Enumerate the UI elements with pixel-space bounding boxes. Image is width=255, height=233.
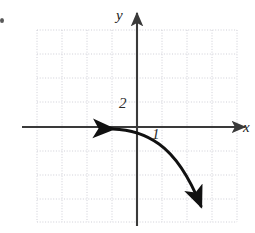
x-axis-tick-label-1: 1 bbox=[152, 127, 160, 142]
y-axis-label: y bbox=[116, 8, 123, 23]
graph-figure: y x 2 1 bbox=[0, 0, 255, 233]
coordinate-plane bbox=[0, 0, 255, 233]
y-axis-tick-label-2: 2 bbox=[119, 96, 127, 111]
x-axis-label: x bbox=[243, 120, 250, 135]
